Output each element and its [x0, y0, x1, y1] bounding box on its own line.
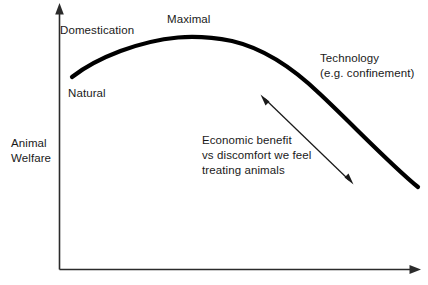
curve-label-technology-line2: (e.g. confinement)	[320, 67, 415, 79]
y-axis-label: AnimalWelfare	[11, 136, 51, 166]
arrowhead-upper-left	[261, 95, 270, 106]
x-axis	[60, 265, 422, 274]
tradeoff-annotation-text: Economic benefitvs discomfort we feeltre…	[202, 133, 311, 178]
curve-label-maximal: Maximal	[167, 12, 211, 27]
y-axis-label-line1: Animal	[11, 137, 47, 149]
figure-canvas: AnimalWelfare Domestication Natural Maxi…	[0, 0, 428, 285]
curve-label-natural: Natural	[68, 86, 106, 101]
curve-label-technology: Technology(e.g. confinement)	[320, 51, 415, 81]
curve-label-technology-line1: Technology	[320, 52, 379, 64]
tradeoff-annotation-line2: vs discomfort we feel	[202, 149, 311, 161]
tradeoff-annotation-line3: treating animals	[202, 164, 285, 176]
x-axis-arrowhead	[410, 265, 422, 274]
y-axis-label-line2: Welfare	[11, 152, 51, 164]
y-axis	[55, 3, 64, 270]
arrowhead-lower-right	[345, 174, 354, 185]
curve-label-domestication: Domestication	[60, 23, 134, 38]
y-axis-arrowhead	[55, 3, 64, 15]
tradeoff-annotation-line1: Economic benefit	[202, 134, 292, 146]
